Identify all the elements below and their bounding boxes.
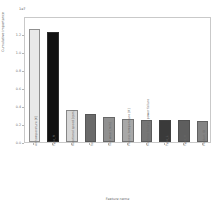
plot-area (24, 17, 211, 143)
x-axis-title: Feature name (24, 197, 211, 201)
y-tick-label: 1.0 (16, 51, 21, 55)
y-tick-label: 0.0 (16, 141, 21, 145)
x-tick-label: Machine failure / power failure (147, 99, 151, 146)
y-axis-exponent-label: 1e7 (19, 7, 25, 11)
x-axis-ticks: Air temperature [K]Type_MRotational spee… (24, 143, 211, 203)
bar-chart-figure: 1e7 Cumulative importance 0.00.20.40.60.… (0, 0, 223, 218)
x-tick-label: Type_L (166, 136, 170, 146)
y-tick-label: 0.8 (16, 69, 21, 73)
x-tick-label: Type_M (53, 135, 57, 146)
y-tick-label: 1.2 (16, 33, 21, 37)
x-tick-label: Type_H (184, 135, 188, 146)
y-axis-ticks: 0.00.20.40.60.81.01.2 (0, 17, 24, 143)
y-tick-label: 0.6 (16, 87, 21, 91)
x-tick-label: Rotational speed [rpm] (72, 110, 76, 146)
x-tick-label: Product ID (203, 130, 207, 146)
bar (47, 32, 59, 142)
x-tick-label: Torque [Nm] (91, 127, 95, 146)
x-tick-label: Air temperature [K] (35, 116, 39, 146)
y-tick-label: 0.4 (16, 105, 21, 109)
x-tick-label: Tool wear [min] (109, 122, 113, 146)
x-tick-label: Process temperature [K] (128, 108, 132, 146)
y-tick-label: 0.2 (16, 123, 21, 127)
